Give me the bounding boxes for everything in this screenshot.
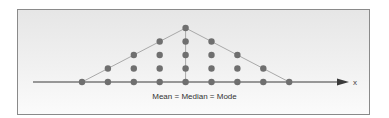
- x-axis-label: x: [353, 78, 357, 87]
- data-dot: [234, 52, 240, 58]
- data-dot: [105, 79, 111, 85]
- data-dot: [208, 79, 214, 85]
- data-dot: [260, 65, 266, 71]
- data-dot: [182, 79, 188, 85]
- data-dot: [157, 38, 163, 44]
- data-dot: [131, 79, 137, 85]
- data-dot: [131, 65, 137, 71]
- data-dot: [105, 65, 111, 71]
- data-dot: [131, 52, 137, 58]
- data-dot: [79, 79, 85, 85]
- data-dot: [157, 52, 163, 58]
- data-dot: [260, 79, 266, 85]
- data-dot: [182, 52, 188, 58]
- x-axis-arrow-icon: [337, 79, 349, 86]
- data-dot: [234, 79, 240, 85]
- data-dot: [208, 38, 214, 44]
- data-dot: [208, 65, 214, 71]
- chart-annotation: Mean = Median = Mode: [0, 92, 389, 101]
- data-dot: [286, 79, 292, 85]
- data-dot: [182, 25, 188, 31]
- data-dot: [157, 79, 163, 85]
- data-dot: [182, 38, 188, 44]
- data-dot: [157, 65, 163, 71]
- data-dot: [234, 65, 240, 71]
- data-dot: [182, 65, 188, 71]
- data-dot: [208, 52, 214, 58]
